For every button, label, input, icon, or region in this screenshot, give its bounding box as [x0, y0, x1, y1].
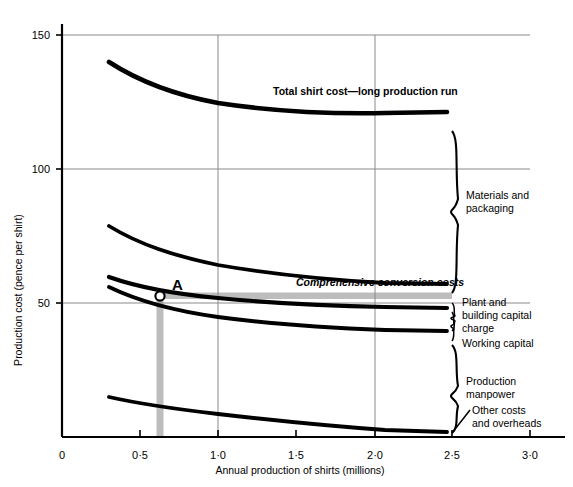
xtick-label-1.0: 1·0: [210, 449, 226, 461]
xtick-label-2.5: 2·5: [444, 449, 460, 461]
point-a-vertical-band: [157, 296, 164, 437]
ytick-label-50: 50: [38, 297, 50, 309]
point-a-marker[interactable]: [155, 291, 164, 300]
plant-label-line2: building capital: [462, 309, 531, 321]
x-axis-title: Annual production of shirts (millions): [215, 464, 384, 476]
ytick-label-100: 100: [32, 163, 50, 175]
plant-label-line1: Plant and: [462, 296, 507, 308]
materials-label-line1: Materials and: [466, 189, 529, 201]
other-costs-label-line2: and overheads: [472, 417, 541, 429]
manpower-label-line2: manpower: [466, 388, 516, 400]
xtick-label-3.0: 3·0: [522, 449, 538, 461]
plant-label-line3: charge: [462, 322, 494, 334]
y-axis-title: Production cost (pence per shirt): [12, 214, 24, 366]
chart-figure: 150 100 50 0 0·5 1·0 1·5 2·0 2·5 3·0 Ann…: [0, 0, 573, 487]
point-a-label: A: [172, 276, 183, 293]
manpower-label-line1: Production: [466, 375, 516, 387]
xtick-label-0.5: 0·5: [132, 449, 148, 461]
production-cost-chart: 150 100 50 0 0·5 1·0 1·5 2·0 2·5 3·0 Ann…: [0, 0, 573, 487]
ytick-label-150: 150: [32, 29, 50, 41]
xtick-label-2.0: 2·0: [367, 449, 383, 461]
xtick-label-1.5: 1·5: [288, 449, 304, 461]
other-costs-label-line1: Other costs: [472, 404, 526, 416]
materials-label-line2: packaging: [466, 202, 514, 214]
working-capital-label: Working capital: [462, 337, 534, 349]
total-cost-curve-label: Total shirt cost—long production run: [273, 85, 458, 97]
conversion-costs-curve-label: Comprehensive conversion costs: [296, 276, 464, 288]
ytick-label-0: 0: [59, 449, 65, 461]
